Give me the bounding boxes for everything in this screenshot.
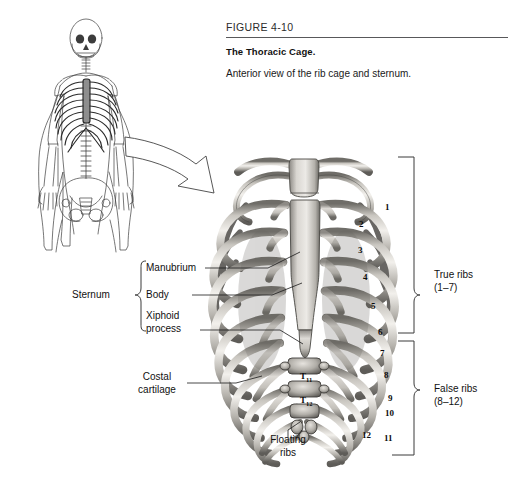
label-body: Body [146, 289, 169, 302]
label-true-ribs: True ribs (1–7) [434, 269, 473, 294]
label-floating-ribs: Floating ribs [259, 434, 317, 459]
leader-xiphoid [200, 330, 303, 344]
leader-body [192, 283, 302, 295]
figure-number: FIGURE 4-10 [226, 20, 508, 34]
rib-number: 2 [359, 219, 364, 229]
rib-number: 10 [385, 408, 394, 418]
rib-number: 12 [362, 430, 371, 440]
rib-number: 9 [388, 393, 393, 403]
rib-number: 5 [371, 301, 376, 311]
manubrium-shape [289, 159, 319, 197]
sternum-body-shape [290, 200, 320, 330]
rib-number: 1 [385, 202, 390, 212]
rib-number: 8 [384, 370, 389, 380]
leader-manubrium [205, 252, 300, 268]
vertebra-label: T12 [300, 395, 313, 407]
rib-number: 4 [363, 272, 368, 282]
label-costal-cartilage: Costal cartilage [128, 371, 186, 396]
label-xiphoid-process: Xiphoid process [146, 310, 181, 335]
xiphoid-process-shape [299, 330, 312, 358]
bracket-false-ribs [392, 341, 420, 455]
bracket-true-ribs [398, 157, 420, 333]
rib-number: 7 [380, 348, 385, 358]
figure-title: The Thoracic Cage. [226, 45, 508, 58]
header-rule [226, 37, 508, 38]
vertebra-label: T11 [300, 371, 312, 383]
rib-number: 6 [378, 327, 383, 337]
rib-number: 3 [358, 245, 363, 255]
rib-number: 11 [384, 433, 393, 443]
bracket-sternum [135, 261, 146, 331]
label-manubrium: Manubrium [146, 262, 196, 275]
figure-caption: Anterior view of the rib cage and sternu… [226, 67, 508, 80]
figure-header: FIGURE 4-10 The Thoracic Cage. Anterior … [226, 20, 508, 80]
label-false-ribs: False ribs (8–12) [434, 383, 477, 408]
label-sternum: Sternum [72, 289, 110, 302]
leader-costal-cartilage [187, 376, 262, 383]
